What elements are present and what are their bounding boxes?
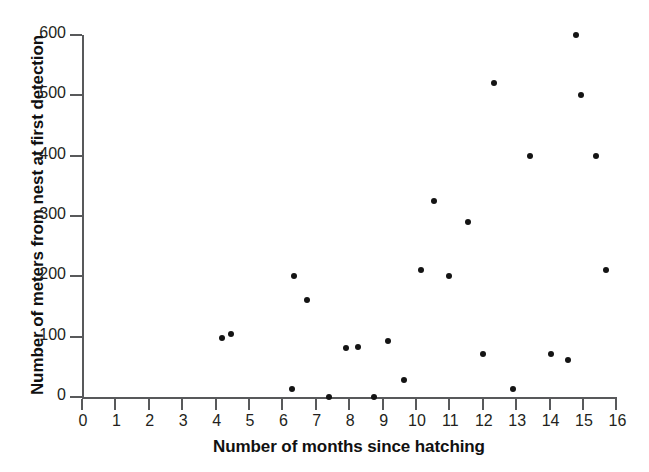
data-point bbox=[465, 219, 471, 225]
y-tick-label-200: 200 bbox=[12, 265, 66, 283]
data-point bbox=[446, 273, 452, 279]
x-tick-label-6: 6 bbox=[268, 412, 298, 430]
y-tick-label-300: 300 bbox=[12, 205, 66, 223]
x-tick-11 bbox=[448, 399, 450, 410]
data-point bbox=[385, 338, 391, 344]
x-tick-15 bbox=[582, 399, 584, 410]
data-point bbox=[355, 344, 361, 350]
y-tick-label-500: 500 bbox=[12, 84, 66, 102]
x-tick-label-14: 14 bbox=[536, 412, 566, 430]
x-tick-label-16: 16 bbox=[602, 412, 632, 430]
x-tick-label-2: 2 bbox=[135, 412, 165, 430]
x-tick-1 bbox=[114, 399, 116, 410]
data-point bbox=[565, 357, 571, 363]
data-point bbox=[289, 386, 295, 392]
data-point bbox=[371, 394, 377, 400]
data-point bbox=[228, 331, 234, 337]
y-tick-0 bbox=[70, 396, 82, 398]
data-point bbox=[491, 80, 497, 86]
y-axis-line bbox=[82, 35, 84, 399]
x-tick-4 bbox=[215, 399, 217, 410]
x-axis-label: Number of months since hatching bbox=[82, 437, 616, 457]
data-point bbox=[593, 153, 599, 159]
x-tick-8 bbox=[348, 399, 350, 410]
data-point bbox=[291, 273, 297, 279]
data-point bbox=[578, 92, 584, 98]
x-tick-10 bbox=[415, 399, 417, 410]
x-tick-2 bbox=[148, 399, 150, 410]
y-tick-100 bbox=[70, 336, 82, 338]
x-tick-label-11: 11 bbox=[435, 412, 465, 430]
x-tick-label-13: 13 bbox=[502, 412, 532, 430]
data-point bbox=[548, 351, 554, 357]
x-tick-13 bbox=[515, 399, 517, 410]
x-tick-label-12: 12 bbox=[469, 412, 499, 430]
data-point bbox=[304, 297, 310, 303]
x-tick-6 bbox=[281, 399, 283, 410]
x-tick-label-5: 5 bbox=[235, 412, 265, 430]
x-tick-label-9: 9 bbox=[369, 412, 399, 430]
x-tick-label-8: 8 bbox=[335, 412, 365, 430]
x-tick-label-4: 4 bbox=[202, 412, 232, 430]
data-point bbox=[603, 267, 609, 273]
data-point bbox=[573, 32, 579, 38]
data-point bbox=[326, 394, 332, 400]
x-tick-3 bbox=[181, 399, 183, 410]
y-tick-label-400: 400 bbox=[12, 145, 66, 163]
data-point bbox=[401, 377, 407, 383]
y-tick-500 bbox=[70, 94, 82, 96]
x-tick-9 bbox=[382, 399, 384, 410]
data-point bbox=[219, 335, 225, 341]
y-tick-label-600: 600 bbox=[12, 24, 66, 42]
data-point bbox=[527, 153, 533, 159]
x-tick-label-3: 3 bbox=[168, 412, 198, 430]
scatter-plot-figure: Number of meters from nest at first dete… bbox=[0, 0, 649, 472]
x-tick-14 bbox=[549, 399, 551, 410]
x-tick-7 bbox=[315, 399, 317, 410]
y-tick-600 bbox=[70, 34, 82, 36]
x-tick-label-15: 15 bbox=[569, 412, 599, 430]
x-tick-label-0: 0 bbox=[68, 412, 98, 430]
data-point bbox=[480, 351, 486, 357]
data-point bbox=[343, 345, 349, 351]
x-tick-label-1: 1 bbox=[101, 412, 131, 430]
y-tick-300 bbox=[70, 215, 82, 217]
y-tick-200 bbox=[70, 275, 82, 277]
x-tick-16 bbox=[615, 399, 617, 410]
data-point bbox=[510, 386, 516, 392]
x-tick-label-7: 7 bbox=[302, 412, 332, 430]
y-tick-400 bbox=[70, 155, 82, 157]
y-tick-label-100: 100 bbox=[12, 326, 66, 344]
data-point bbox=[431, 198, 437, 204]
x-tick-0 bbox=[81, 399, 83, 410]
x-tick-12 bbox=[482, 399, 484, 410]
data-point bbox=[418, 267, 424, 273]
x-tick-label-10: 10 bbox=[402, 412, 432, 430]
y-tick-label-0: 0 bbox=[12, 386, 66, 404]
x-tick-5 bbox=[248, 399, 250, 410]
